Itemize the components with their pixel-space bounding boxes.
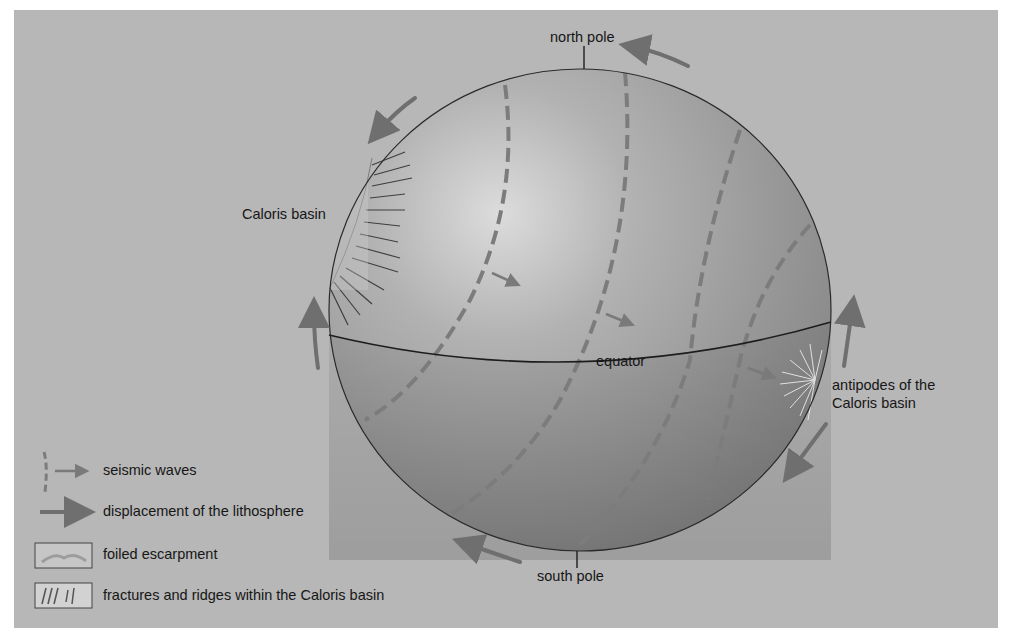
legend-foiled-escarpment: foiled escarpment (103, 546, 217, 563)
mercury-globe-diagram (0, 0, 1016, 639)
sphere (320, 46, 840, 568)
caloris-basin-label: Caloris basin (242, 206, 326, 223)
foiled-escarpment-swatch (35, 543, 92, 568)
legend-displacement: displacement of the lithosphere (103, 503, 304, 520)
legend-seismic-waves: seismic waves (103, 462, 196, 479)
fractures-ridges-swatch (35, 583, 92, 608)
south-pole-label: south pole (537, 568, 604, 585)
north-pole-label: north pole (550, 29, 615, 46)
legend-fractures-ridges: fractures and ridges within the Caloris … (103, 587, 384, 604)
antipodes-label-line2: Caloris basin (832, 395, 916, 412)
seismic-wave-icon (44, 452, 82, 492)
legend-icons (35, 452, 92, 608)
antipodes-label-line1: antipodes of the (832, 377, 935, 394)
equator-label: equator (596, 353, 645, 370)
